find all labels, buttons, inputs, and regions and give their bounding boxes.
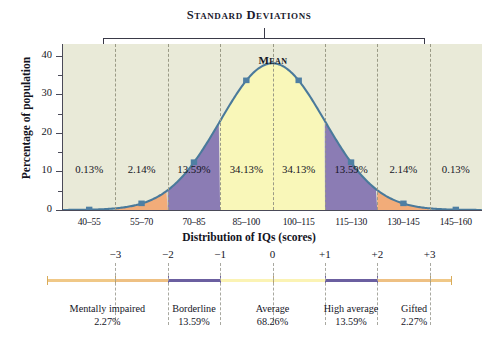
y-tick-label: 10 bbox=[30, 164, 52, 175]
sd-tick-label: −3 bbox=[100, 248, 130, 260]
curve-marker bbox=[243, 78, 249, 84]
x-category-label: 70–85 bbox=[168, 216, 220, 227]
bracket-center-tick bbox=[264, 28, 265, 39]
number-line-highlight-bar bbox=[325, 279, 377, 282]
gridline-sd-+2 bbox=[377, 44, 378, 210]
gridline-sd-−1 bbox=[220, 44, 221, 210]
gridline-sd-+3 bbox=[430, 44, 431, 210]
standard-deviation-number-line: −3−2−10+1+2+3 Mentally impaired2.27%Bord… bbox=[0, 248, 498, 346]
number-line-highlight-bar bbox=[168, 279, 220, 282]
iq-distribution-figure: Standard Deviations Percentage of popula… bbox=[0, 0, 498, 346]
mean-label: Mean bbox=[245, 54, 301, 66]
x-category-label: 85–100 bbox=[220, 216, 272, 227]
category-percent: 2.27% bbox=[359, 316, 469, 329]
bin-percent-label: 2.14% bbox=[116, 163, 168, 175]
bin-percent-label: 34.13% bbox=[273, 163, 325, 175]
category-name: Gifted bbox=[359, 303, 469, 316]
sd-tick-label: +2 bbox=[362, 248, 392, 260]
sd-tick-label: +1 bbox=[310, 248, 340, 260]
gridline-sd-0 bbox=[273, 44, 274, 210]
y-tick-label: 20 bbox=[30, 126, 52, 137]
curve-marker bbox=[138, 201, 144, 207]
bin-percent-label: 0.13% bbox=[63, 163, 115, 175]
plot-area bbox=[63, 44, 482, 210]
x-category-label: 40–55 bbox=[63, 216, 115, 227]
sd-tick-label: −2 bbox=[153, 248, 183, 260]
y-tick-label: 0 bbox=[30, 203, 52, 214]
gridline-sd-−2 bbox=[168, 44, 169, 210]
category-label-group: Gifted2.27% bbox=[359, 303, 469, 329]
sd-tick-label: +3 bbox=[415, 248, 445, 260]
x-category-label: 130–145 bbox=[377, 216, 429, 227]
number-line-segment bbox=[430, 279, 451, 282]
gridline-sd-−3 bbox=[115, 44, 116, 210]
sd-tick-label: −1 bbox=[205, 248, 235, 260]
gridline-sd-+1 bbox=[325, 44, 326, 210]
number-line-track bbox=[47, 279, 451, 282]
number-line-segment bbox=[377, 279, 429, 282]
bin-percent-label: 0.13% bbox=[430, 163, 482, 175]
x-category-label: 145–160 bbox=[430, 216, 482, 227]
y-tick-major bbox=[56, 133, 63, 134]
x-axis-line bbox=[63, 210, 482, 211]
curve-marker bbox=[295, 78, 301, 84]
bin-percent-label: 13.59% bbox=[168, 163, 220, 175]
standard-deviations-bracket bbox=[103, 28, 425, 44]
number-line-segment bbox=[273, 279, 325, 282]
curve-marker bbox=[400, 201, 406, 207]
number-line-segment bbox=[220, 279, 272, 282]
number-line-segment bbox=[47, 279, 115, 282]
sd-tick-label: 0 bbox=[258, 248, 288, 260]
y-tick-major bbox=[56, 210, 63, 211]
y-tick-major bbox=[56, 94, 63, 95]
x-category-label: 100–115 bbox=[273, 216, 325, 227]
x-category-label: 55–70 bbox=[116, 216, 168, 227]
y-tick-label: 30 bbox=[30, 87, 52, 98]
bin-percent-label: 13.59% bbox=[325, 163, 377, 175]
x-axis-title: Distribution of IQs (scores) bbox=[0, 231, 498, 243]
number-line-end-cap bbox=[47, 276, 48, 285]
bin-percent-label: 2.14% bbox=[377, 163, 429, 175]
x-category-label: 115–130 bbox=[325, 216, 377, 227]
number-line-end-cap bbox=[451, 276, 452, 285]
y-tick-label: 40 bbox=[30, 49, 52, 60]
bin-percent-label: 34.13% bbox=[220, 163, 272, 175]
y-tick-major bbox=[56, 171, 63, 172]
number-line-segment bbox=[115, 279, 167, 282]
y-tick-major bbox=[56, 56, 63, 57]
standard-deviations-title: Standard Deviations bbox=[0, 8, 498, 23]
